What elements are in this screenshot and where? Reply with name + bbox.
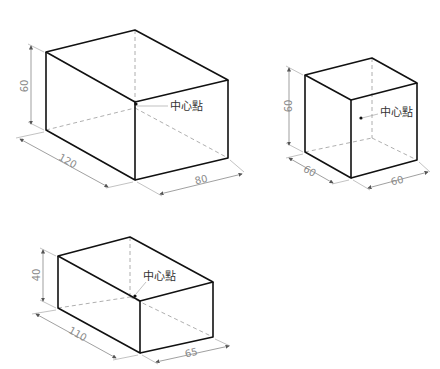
box-cube: 中心點 60 60 60 (283, 58, 430, 190)
dim-length: 60 (301, 163, 317, 179)
dim-width: 65 (184, 346, 199, 360)
center-label: 中心點 (170, 100, 203, 113)
box-flat: 中心點 40 110 65 (31, 237, 230, 364)
center-label: 中心點 (143, 270, 176, 283)
box-large: 中心點 60 120 80 (16, 30, 244, 196)
dim-height: 60 (19, 80, 30, 93)
dim-height: 40 (31, 269, 42, 282)
center-label: 中心點 (380, 106, 413, 119)
isometric-boxes-diagram: 中心點 60 120 80 中心點 60 60 (0, 0, 440, 369)
dim-width: 60 (390, 174, 405, 188)
dim-length: 120 (57, 152, 79, 171)
dim-width: 80 (194, 173, 209, 187)
dim-height: 60 (283, 100, 294, 113)
dim-length: 110 (67, 325, 89, 344)
center-point-marker (134, 102, 137, 105)
center-point-marker (133, 294, 136, 297)
